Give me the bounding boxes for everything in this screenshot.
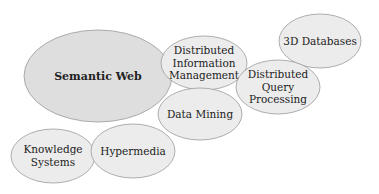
bubble-diagram: Semantic WebDistributedInformationManage… bbox=[0, 0, 379, 194]
node-label: Hypermedia bbox=[100, 145, 166, 157]
node-label: Data Mining bbox=[167, 108, 233, 120]
node-data-mining: Data Mining bbox=[158, 88, 242, 140]
node-distributed-information-management: DistributedInformationManagement bbox=[161, 36, 247, 90]
node-label: Query bbox=[262, 81, 295, 93]
node-label: Knowledge bbox=[23, 143, 82, 155]
node-label: Distributed bbox=[174, 44, 235, 56]
node-3d-databases: 3D Databases bbox=[279, 14, 361, 68]
node-label: Management bbox=[169, 69, 240, 81]
node-knowledge-systems: KnowledgeSystems bbox=[11, 129, 95, 183]
node-semantic-web: Semantic Web bbox=[24, 30, 172, 122]
node-label: Systems bbox=[31, 156, 75, 168]
node-distributed-query-processing: DistributedQueryProcessing bbox=[236, 60, 320, 114]
node-label: Distributed bbox=[248, 68, 309, 80]
node-label: Information bbox=[172, 57, 235, 69]
node-label: 3D Databases bbox=[283, 35, 357, 47]
node-label: Processing bbox=[249, 93, 307, 105]
node-hypermedia: Hypermedia bbox=[91, 124, 175, 178]
node-label: Semantic Web bbox=[54, 70, 142, 83]
